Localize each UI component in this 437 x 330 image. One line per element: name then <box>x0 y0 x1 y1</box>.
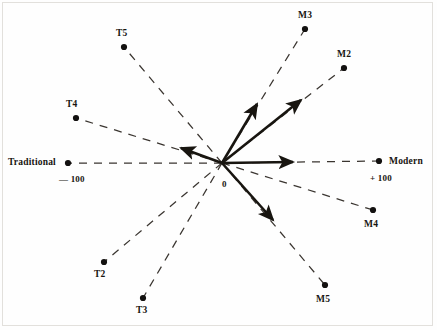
axis-T3 <box>143 163 222 298</box>
label-plus-hundred: + 100 <box>370 174 392 183</box>
label-t5: T5 <box>116 29 128 39</box>
label-origin: 0 <box>222 180 227 189</box>
point-m4 <box>370 207 376 213</box>
vector-left <box>181 148 222 163</box>
vector-down-right <box>222 163 273 220</box>
label-m4: M4 <box>364 220 378 230</box>
point-modern <box>376 158 382 164</box>
axis-T5 <box>124 47 222 163</box>
point-m2 <box>341 65 347 71</box>
point-traditional <box>65 160 71 166</box>
point-t5 <box>121 44 127 50</box>
label-minus-hundred: — 100 <box>59 175 85 184</box>
point-m3 <box>302 26 308 32</box>
radial-vector-plot <box>0 0 437 330</box>
axis-T2 <box>104 163 222 262</box>
point-t4 <box>73 115 79 121</box>
label-m5: M5 <box>316 295 330 305</box>
point-t3 <box>140 295 146 301</box>
vector-right <box>222 162 293 163</box>
vector-up-steep <box>222 104 257 163</box>
label-t2: T2 <box>94 270 106 280</box>
vector-up-shallow <box>222 100 301 163</box>
label-t4: T4 <box>66 100 78 110</box>
label-traditional: Traditional <box>8 158 56 168</box>
point-t2 <box>101 259 107 265</box>
label-m3: M3 <box>298 11 312 21</box>
point-m5 <box>322 282 328 288</box>
chart-canvas: Traditional — 100 Modern + 100 0 T5 T4 T… <box>0 0 437 330</box>
label-m2: M2 <box>337 50 351 60</box>
label-t3: T3 <box>136 306 148 316</box>
label-modern: Modern <box>389 157 423 167</box>
